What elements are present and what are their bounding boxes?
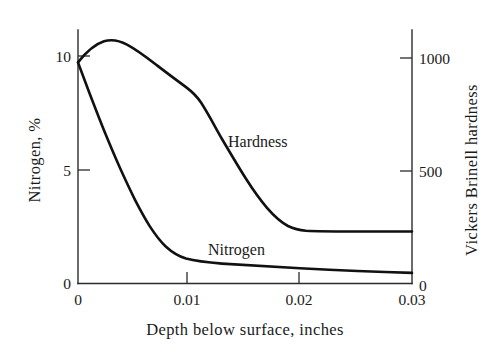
x-tick-label-0-01: 0.01 (173, 291, 200, 308)
y-left-tick-label-5: 5 (63, 162, 71, 179)
x-axis-title: Depth below surface, inches (146, 320, 344, 339)
y-axis-left-title: Nitrogen, % (25, 117, 44, 202)
y-axis-right-title: Vickers Brinell hardness (462, 84, 481, 256)
hardness-series-label: Hardness (228, 133, 288, 150)
y-left-tick-label-0: 0 (63, 275, 71, 292)
chart-figure: Hardness Nitrogen 10 5 0 1000 500 0 0 0.… (0, 0, 497, 358)
y-right-tick-label-500: 500 (419, 163, 443, 180)
y-left-tick-label-10: 10 (56, 48, 72, 65)
x-tick-label-0: 0 (74, 291, 82, 308)
y-right-tick-label-1000: 1000 (419, 50, 450, 67)
x-tick-label-0-02: 0.02 (285, 291, 312, 308)
chart-svg: Hardness Nitrogen 10 5 0 1000 500 0 0 0.… (0, 0, 497, 358)
nitrogen-series-label: Nitrogen (208, 241, 265, 259)
x-tick-label-0-03: 0.03 (398, 291, 425, 308)
